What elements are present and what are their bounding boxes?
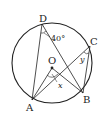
angle-label-x: x [58,81,63,90]
label-D: D [39,13,47,24]
center-point-O [51,67,54,70]
label-B: B [83,94,90,105]
segment-OB [52,68,83,93]
circle-diagram: D C B A O 40° x y [0,0,105,121]
label-O: O [48,55,56,66]
angle-leader-line [44,33,50,37]
angle-label-D: 40° [51,34,65,43]
label-C: C [90,36,98,47]
label-A: A [25,102,34,113]
segment-DA [32,24,42,100]
angle-arc-D [41,31,46,33]
angle-arc-C [84,52,89,54]
angle-label-y: y [79,55,85,64]
